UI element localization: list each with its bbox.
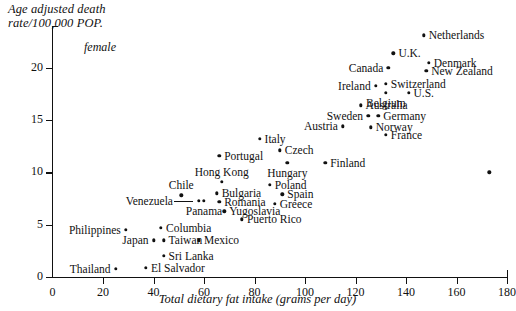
data-point-label: Austria: [304, 120, 338, 132]
data-point: [278, 149, 281, 152]
y-axis-top-cap: [52, 26, 58, 27]
data-point: [202, 199, 205, 202]
data-point: [369, 126, 372, 129]
y-axis-title-line1: Age adjusted death: [8, 2, 106, 16]
data-point: [286, 161, 289, 164]
data-point: [488, 171, 491, 174]
data-point: [341, 125, 344, 128]
data-point-label: Columbia: [166, 222, 211, 234]
label-leader-line: [174, 201, 193, 202]
x-tick: [305, 277, 306, 284]
data-point-label: Germany: [383, 110, 426, 122]
data-point: [144, 266, 147, 269]
data-point: [407, 91, 410, 94]
data-point-label: France: [391, 129, 422, 141]
x-axis-title: Total dietary fat intake (grams per day): [0, 292, 515, 307]
data-point: [220, 180, 223, 183]
y-tick-label: 0: [3, 269, 43, 284]
y-tick: [46, 68, 53, 69]
x-axis: [52, 277, 508, 278]
x-tick: [507, 277, 508, 284]
data-point: [159, 226, 162, 229]
data-point: [392, 51, 395, 54]
data-point-label: U.S.: [414, 87, 434, 99]
data-point: [152, 239, 155, 242]
data-point-label: Canada: [349, 62, 383, 74]
data-point: [217, 200, 220, 203]
y-axis-title-line2: rate/100,000 POP.: [8, 16, 106, 30]
data-point: [366, 114, 369, 117]
data-point: [384, 133, 387, 136]
data-point: [162, 254, 165, 257]
x-tick: [356, 277, 357, 284]
data-point: [427, 61, 430, 64]
data-point-label: Puerto Rico: [247, 213, 302, 225]
data-point: [217, 154, 220, 157]
data-point: [424, 69, 427, 72]
data-point: [180, 194, 183, 197]
data-point: [374, 84, 377, 87]
y-tick-label: 10: [3, 164, 43, 179]
data-point-label: Japan: [122, 234, 148, 246]
data-point-label: Chile: [169, 179, 194, 191]
data-point-label: Philippines: [69, 224, 121, 236]
x-tick: [204, 277, 205, 284]
y-tick-label: 15: [3, 112, 43, 127]
data-point: [323, 161, 326, 164]
y-axis: [52, 26, 53, 278]
data-point: [124, 228, 127, 231]
x-tick: [406, 277, 407, 284]
data-point-label: Greece: [280, 198, 313, 210]
data-point: [384, 82, 387, 85]
data-point-label: El Salvador: [151, 262, 205, 274]
series-annotation-female: female: [84, 40, 116, 55]
y-tick-label: 20: [3, 60, 43, 75]
data-point-label: Thailand: [70, 263, 111, 275]
data-point: [387, 66, 390, 69]
data-point: [384, 91, 387, 94]
data-point-label: Ireland: [338, 80, 371, 92]
data-point-label: Italy: [265, 133, 286, 145]
y-tick: [46, 120, 53, 121]
data-point-label: Czech: [285, 144, 314, 156]
y-tick: [46, 277, 53, 278]
data-point-label: Netherlands: [429, 29, 485, 41]
data-point: [114, 267, 117, 270]
data-point: [359, 104, 362, 107]
x-tick: [457, 277, 458, 284]
data-point: [197, 199, 200, 202]
data-point: [162, 239, 165, 242]
data-point: [258, 137, 261, 140]
data-point: [240, 218, 243, 221]
y-tick-label: 5: [3, 217, 43, 232]
data-point-label: Mexico: [204, 234, 239, 246]
data-point-label: New Zealand: [431, 65, 493, 77]
data-point-label: U.K.: [398, 47, 420, 59]
data-point-label: Hungary: [267, 167, 307, 179]
data-point: [268, 183, 271, 186]
x-tick: [103, 277, 104, 284]
data-point-label: Portugal: [224, 150, 263, 162]
data-point-label: Venezuela: [126, 195, 173, 207]
y-tick: [46, 225, 53, 226]
x-tick: [255, 277, 256, 284]
data-point-label: Sri Lanka: [169, 250, 214, 262]
x-tick: [154, 277, 155, 284]
data-point: [215, 192, 218, 195]
data-point-label: Finland: [330, 157, 365, 169]
data-point: [281, 193, 284, 196]
data-point: [222, 209, 225, 212]
data-point-label: Panama: [186, 205, 222, 217]
data-point-label: Hong Kong: [195, 166, 249, 178]
data-point-label: Taiwan: [169, 234, 203, 246]
data-point: [377, 114, 380, 117]
data-point: [422, 34, 425, 37]
y-tick: [46, 172, 53, 173]
